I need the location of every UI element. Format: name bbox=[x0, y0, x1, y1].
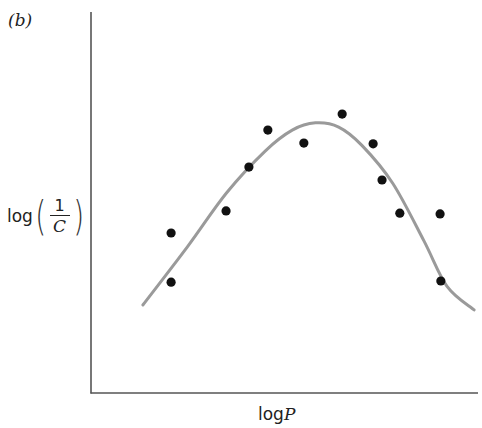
data-point bbox=[263, 126, 272, 135]
data-point bbox=[377, 175, 386, 184]
right-paren: ) bbox=[73, 196, 84, 236]
fraction: 1 C bbox=[50, 197, 70, 236]
left-paren: ( bbox=[35, 196, 46, 236]
data-point bbox=[244, 162, 253, 171]
data-point bbox=[435, 209, 444, 218]
fraction-denominator: C bbox=[53, 216, 66, 236]
x-axis-label: logP bbox=[258, 404, 295, 424]
data-point bbox=[299, 138, 308, 147]
data-point bbox=[436, 276, 445, 285]
y-axis-label: log ( 1 C ) bbox=[7, 186, 86, 246]
fit-curve bbox=[143, 123, 474, 310]
data-point bbox=[221, 206, 230, 215]
data-point bbox=[338, 110, 347, 119]
y-axis-label-log: log bbox=[7, 206, 33, 226]
x-axis-label-var: P bbox=[284, 404, 295, 424]
fraction-numerator: 1 bbox=[54, 197, 64, 215]
x-axis-label-log: log bbox=[258, 404, 284, 424]
data-point bbox=[369, 139, 378, 148]
data-point bbox=[395, 209, 404, 218]
data-point bbox=[167, 278, 176, 287]
data-point bbox=[167, 228, 176, 237]
